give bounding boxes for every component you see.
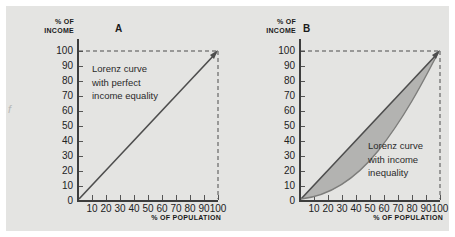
panel-a-annotation: Lorenz curve with perfect income equalit… bbox=[92, 62, 158, 103]
panel-b-annotation-line2: with income bbox=[368, 153, 423, 167]
panel-b: B % OF INCOME 100 90 80 70 60 50 40 30 bbox=[228, 6, 449, 231]
panel-b-annotation-line3: inequality bbox=[368, 166, 423, 180]
panel-a-annotation-line3: income equality bbox=[92, 89, 158, 103]
panel-a-plot bbox=[6, 6, 227, 231]
panel-a-annotation-line2: with perfect bbox=[92, 76, 158, 90]
panel-a-annotation-line1: Lorenz curve bbox=[92, 62, 158, 76]
lorenz-curve-figure: f A % OF INCOME 100 90 80 70 60 50 40 bbox=[0, 0, 455, 237]
panel-b-annotation-line1: Lorenz curve bbox=[368, 139, 423, 153]
panel-b-annotation: Lorenz curve with income inequality bbox=[368, 139, 423, 180]
panel-b-plot bbox=[228, 6, 449, 231]
figure-plate: f A % OF INCOME 100 90 80 70 60 50 40 bbox=[6, 6, 449, 231]
panel-b-x-axis-label: % OF POPULATION bbox=[288, 214, 443, 221]
panel-a: A % OF INCOME 100 90 80 70 60 50 40 30 bbox=[6, 6, 227, 231]
panel-a-x-axis-label: % OF POPULATION bbox=[66, 214, 221, 221]
